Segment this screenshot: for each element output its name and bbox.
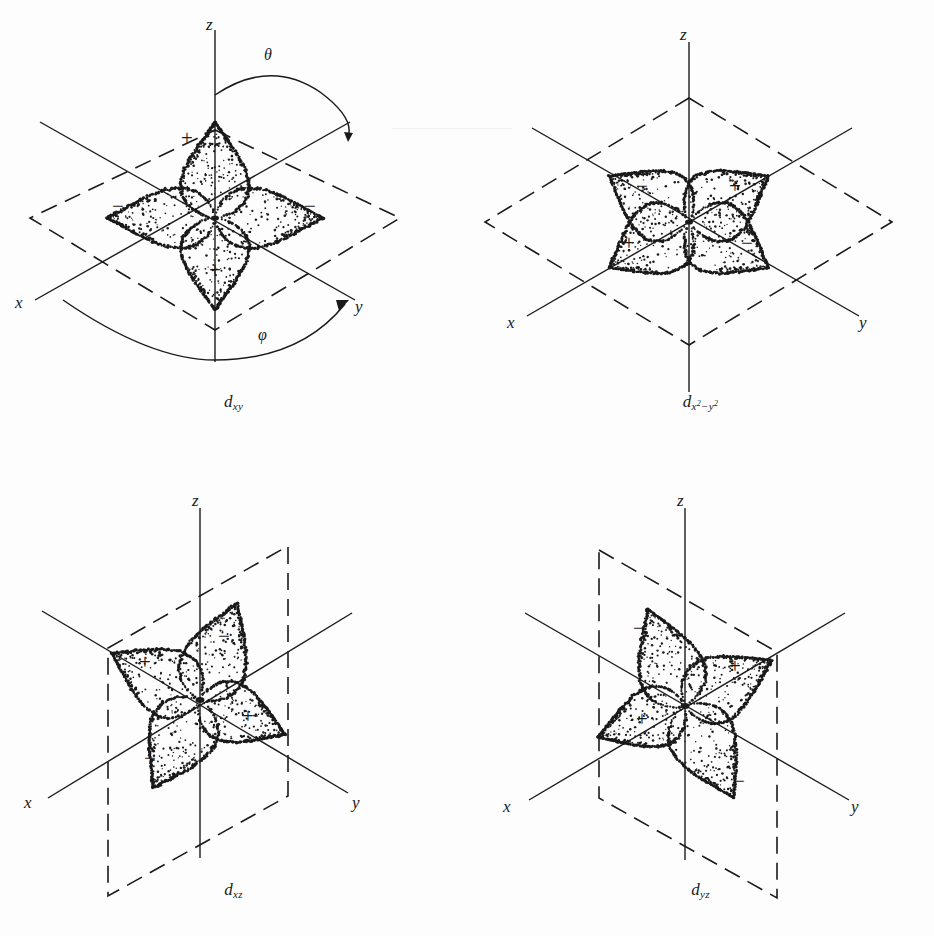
lobe-sign-upper-right: + — [729, 174, 741, 198]
lobe-sign-upper-right: − — [218, 624, 230, 648]
y-axis-label: y — [350, 793, 360, 812]
x-axis-label: x — [23, 793, 32, 812]
panel-dyz: z x y − + + − dyz — [467, 468, 934, 936]
lobe-sign-lower-right: − — [733, 769, 745, 793]
panel-dxz: z x y + − − + dxz — [0, 468, 467, 936]
z-axis-label: z — [676, 491, 684, 510]
phi-arc — [63, 300, 349, 360]
lobe-sign-upper-left: − — [633, 616, 645, 640]
dyz-origin-dot — [681, 703, 690, 709]
dyz-plane-parallelogram — [599, 550, 777, 898]
lobe-sign-right: − — [304, 194, 316, 218]
orbital-label-dxz: dxz — [0, 880, 467, 900]
lobe-sign-upper-right: + — [729, 654, 741, 678]
x-axis-label: x — [502, 797, 511, 816]
lobe-sign-top: + — [181, 126, 193, 150]
dxy-origin-dot — [211, 215, 219, 220]
y-axis-label: y — [849, 797, 859, 816]
lobe-sign-bottom: + — [209, 258, 221, 282]
orbital-label-sub: xy — [233, 400, 243, 412]
lobe-sign-left: − — [112, 194, 124, 218]
y-axis-label: y — [353, 297, 363, 316]
panel-dx2-y2: z x y − + + − dx2−y2 — [467, 0, 934, 468]
orbital-label-dyz: dyz — [467, 880, 934, 900]
y-axis-label: y — [857, 313, 867, 332]
lobe-sign-upper-left: + — [139, 650, 151, 674]
panel-dxy-graphic: θ φ z x y + − − + — [0, 0, 467, 430]
panel-dyz-graphic: z x y − + + − — [467, 468, 934, 908]
z-axis-label: z — [205, 15, 213, 34]
panel-dx2-y2-graphic: z x y − + + − — [467, 0, 934, 430]
d-orbital-figure: θ φ z x y + − − + dxy — [0, 0, 934, 936]
orbital-label-sub: yz — [700, 888, 710, 900]
z-axis-label: z — [679, 25, 687, 44]
lobe-sign-lower-right: + — [242, 704, 254, 728]
dxz-origin-dot — [196, 697, 205, 703]
lobe-sign-upper-left: − — [636, 174, 648, 198]
orbital-label-dx2-y2: dx2−y2 — [467, 392, 934, 412]
dxz-lobes — [110, 602, 287, 790]
orbital-label-sub: x2−y2 — [692, 400, 719, 412]
dyz-axes — [525, 508, 849, 860]
lobe-sign-lower-left: + — [636, 707, 648, 731]
theta-label: θ — [264, 46, 272, 63]
phi-label: φ — [258, 326, 267, 344]
orbital-label-dxy: dxy — [0, 392, 467, 412]
x-axis-label: x — [506, 313, 515, 332]
lobe-sign-lower-left: − — [144, 746, 156, 770]
panel-dxz-graphic: z x y + − − + — [0, 468, 467, 908]
x-axis-label: x — [14, 293, 23, 312]
z-axis-label: z — [191, 491, 199, 510]
lobe-sign-lower-right: − — [741, 231, 753, 255]
orbital-label-sub: xz — [233, 888, 243, 900]
panel-dxy: θ φ z x y + − − + dxy — [0, 0, 467, 468]
lobe-sign-lower-left: + — [623, 231, 635, 255]
dx2y2-origin-dot — [685, 219, 693, 224]
